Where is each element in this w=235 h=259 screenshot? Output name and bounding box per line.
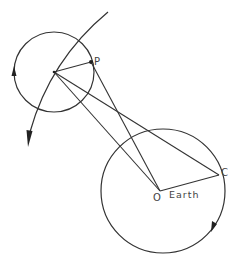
line-center-to-c	[54, 72, 219, 175]
orbit-diagram: P C O Earth	[0, 0, 235, 259]
large-circle	[101, 129, 225, 253]
point-p	[89, 60, 93, 64]
point-center	[53, 71, 56, 74]
label-earth: Earth	[169, 189, 199, 200]
label-p: P	[94, 56, 100, 67]
line-p-to-o	[91, 62, 160, 191]
small-circle-arrow-icon	[12, 66, 17, 76]
deferent-arrow-icon	[27, 130, 33, 147]
diagram-canvas: P C O Earth	[0, 0, 235, 259]
label-c: C	[221, 167, 228, 178]
label-o: O	[153, 192, 161, 203]
